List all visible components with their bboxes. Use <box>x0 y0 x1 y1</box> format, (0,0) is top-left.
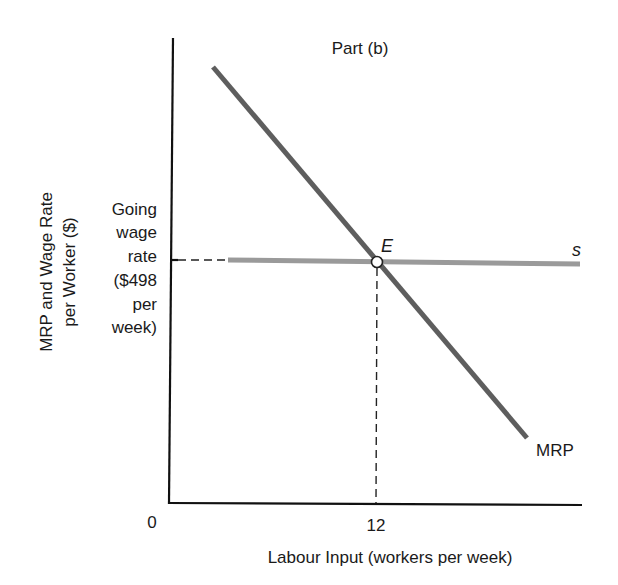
wage-annotation: Going wage rate ($498 per week) <box>111 200 158 337</box>
mrp-curve-label: MRP <box>536 441 574 460</box>
wage-annotation-line3: rate <box>128 247 157 266</box>
x-axis <box>168 503 582 505</box>
wage-annotation-line2: wage <box>115 223 157 242</box>
wage-annotation-line4: ($498 <box>114 271 157 290</box>
equilibrium-point <box>372 257 383 268</box>
supply-curve <box>228 260 580 264</box>
x-axis-label: Labour Input (workers per week) <box>268 548 513 567</box>
y-axis <box>169 38 173 504</box>
x-tick-label-origin: 0 <box>147 513 156 532</box>
wage-annotation-line6: week) <box>111 318 157 337</box>
wage-annotation-line5: per <box>132 295 157 314</box>
chart-canvas: Part (b) MRP and Wage Rate per Worker ($… <box>0 0 618 585</box>
wage-annotation-line1: Going <box>112 200 157 219</box>
equilibrium-label: E <box>381 236 394 256</box>
y-axis-label-line1: MRP and Wage Rate <box>37 192 56 352</box>
y-axis-label: MRP and Wage Rate per Worker ($) <box>37 192 79 352</box>
chart-title: Part (b) <box>332 39 389 58</box>
supply-curve-label: s <box>572 240 581 260</box>
labour-dashed-guide <box>376 268 377 503</box>
x-tick-label-12: 12 <box>367 516 386 535</box>
y-axis-label-line2: per Worker ($) <box>60 217 79 326</box>
mrp-curve <box>213 67 527 438</box>
